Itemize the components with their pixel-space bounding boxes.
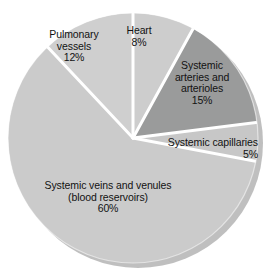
slice-label-arteries-line3: arterioles: [166, 83, 238, 95]
slice-label-veins-line1: Systemic veins and venules: [24, 180, 192, 192]
slice-label-systemic-veins: Systemic veins and venules (blood reserv…: [24, 180, 192, 215]
slice-label-arteries-value: 15%: [166, 95, 238, 107]
slice-label-heart-value: 8%: [112, 37, 166, 49]
slice-label-heart-line1: Heart: [112, 25, 166, 37]
slice-label-pulmonary-line1: Pulmonary: [36, 29, 112, 41]
cropped-title-sliver: [62, 0, 192, 3]
pie-chart: Heart 8% Pulmonary vessels 12% Systemic …: [0, 0, 270, 272]
slice-label-pulmonary-vessels: Pulmonary vessels 12%: [36, 29, 112, 64]
slice-label-systemic-capillaries: Systemic capillaries 5%: [142, 137, 258, 160]
slice-label-veins-value: 60%: [24, 203, 192, 215]
slice-label-arteries-line1: Systemic: [166, 60, 238, 72]
slice-label-capillaries-value: 5%: [142, 149, 258, 161]
slice-label-pulmonary-value: 12%: [36, 52, 112, 64]
slice-label-heart: Heart 8%: [112, 25, 166, 48]
slice-label-systemic-arteries: Systemic arteries and arterioles 15%: [166, 60, 238, 106]
slice-label-capillaries-line1: Systemic capillaries: [142, 137, 258, 149]
